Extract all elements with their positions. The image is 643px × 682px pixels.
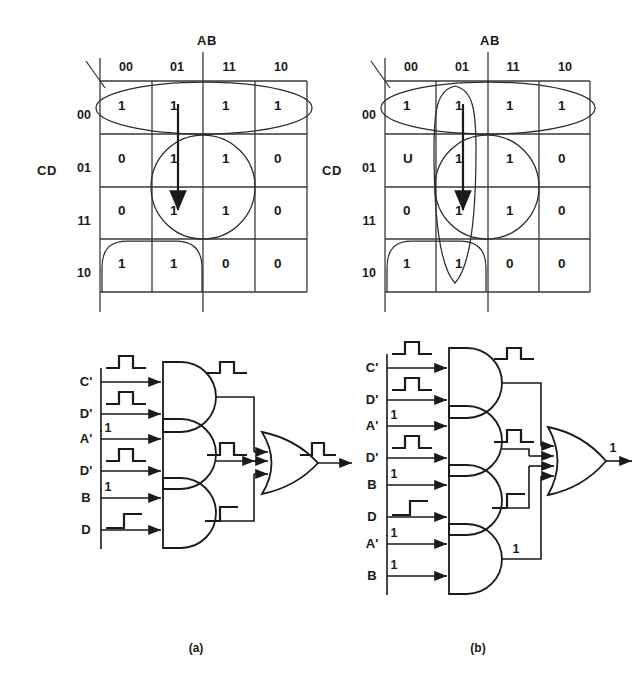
kmap-b-cell-0-2: 1 xyxy=(506,98,514,113)
kmap-b-cell-1-1: 1 xyxy=(455,151,463,166)
kmap-b-cell-0-1: 1 xyxy=(455,98,463,113)
caption-b: (b) xyxy=(470,641,485,655)
circuit-a-output-pulse-waveform-icon xyxy=(300,443,336,455)
kmap-a-row-header: CD xyxy=(37,163,57,178)
circuit-b-and3-input-1-waveform-icon xyxy=(392,501,428,515)
kmap-a-row-label-3: 10 xyxy=(77,266,91,280)
circuit-b-and1-input-0-label: C' xyxy=(366,360,378,375)
kmap-a-cell-3-3: 0 xyxy=(274,256,282,271)
kmap-a-cell-3-1: 1 xyxy=(170,256,178,271)
circuit-a-and1-input-0-waveform-icon xyxy=(106,356,146,368)
circuit-b-and4-input-1-value: 1 xyxy=(391,558,398,572)
circuit-a-and2-input-1-label: D' xyxy=(80,463,92,478)
kmap-b-col-label-0: 00 xyxy=(404,60,418,74)
circuit-b-and1-output-waveform-icon xyxy=(494,348,534,359)
circuit-a-and3-input-0-value: 1 xyxy=(105,480,112,494)
kmap-a-grid xyxy=(86,52,307,312)
circuit-a-and3-input-1-label: D xyxy=(81,522,90,537)
circuit-b-and4-input-0-label: A' xyxy=(366,536,378,551)
circuit-b-and3-output-waveform-icon xyxy=(492,494,525,508)
kmap-b-row-label-2: 11 xyxy=(362,214,375,228)
kmap-a-row-label-1: 01 xyxy=(77,161,91,175)
kmap-b: AB CD 00 01 11 10 00 01 11 10 1 1 1 1 U … xyxy=(322,33,595,312)
kmap-b-row-label-0: 00 xyxy=(362,108,376,122)
circuit-b-output-value: 1 xyxy=(610,441,617,455)
circuit-a-and1-input-1-waveform-icon xyxy=(106,392,146,404)
circuit-b-and3-input-1-label: D xyxy=(367,509,376,524)
kmap-a-row-label-0: 00 xyxy=(77,108,91,122)
kmap-b-row-label-1: 01 xyxy=(362,161,376,175)
kmap-b-cell-3-2: 0 xyxy=(506,256,514,271)
circuit-b-and1-input-0-waveform-icon xyxy=(392,342,432,354)
circuit-a-and3-output-waveform-icon xyxy=(205,507,238,521)
circuit-b-and1-input-1-label: D' xyxy=(366,392,378,407)
circuit-b-and2-input-0-label: A' xyxy=(366,418,378,433)
kmap-a-cell-2-1: 1 xyxy=(170,203,178,218)
kmap-a-cell-2-2: 1 xyxy=(222,203,230,218)
kmap-a-cell-0-2: 1 xyxy=(222,98,230,113)
kmap-b-col-header: AB xyxy=(480,33,500,48)
circuit-a-and1-output-waveform-icon xyxy=(207,362,247,373)
kmap-a-cell-2-0: 0 xyxy=(118,203,126,218)
circuit-b-and2-input-1-waveform-icon xyxy=(392,436,432,448)
circuit-b-and3-input-0-label: B xyxy=(367,477,376,492)
circuit-a-and1-input-0-label: C' xyxy=(80,374,92,389)
circuit-b-and4-input-1-label: B xyxy=(367,568,376,583)
kmap-a-cell-1-1: 1 xyxy=(170,151,178,166)
kmap-a-cell-0-1: 1 xyxy=(170,98,178,113)
kmap-b-group-consensus-column xyxy=(434,86,476,283)
circuit-a-and2-input-0-value: 1 xyxy=(105,421,112,435)
kmap-b-cell-2-2: 1 xyxy=(506,203,514,218)
circuit-a-and3-input-1-waveform-icon xyxy=(106,514,142,528)
circuit-a-and2-input-1-waveform-icon xyxy=(106,449,146,461)
kmap-a-cell-2-3: 0 xyxy=(274,203,282,218)
kmap-b-cell-0-3: 1 xyxy=(558,98,566,113)
circuit-a-and1-input-1-label: D' xyxy=(80,406,92,421)
circuit-b-and4-output-wire xyxy=(502,476,541,559)
circuit-a-and3-input-0-label: B xyxy=(81,490,90,505)
kmap-a-cell-0-0: 1 xyxy=(118,98,126,113)
circuit-b-or-gate xyxy=(548,427,606,495)
kmap-a: AB CD 00 01 11 10 00 01 11 10 1 1 1 1 0 … xyxy=(37,33,312,312)
circuit-b-and2-input-1-label: D' xyxy=(366,450,378,465)
kmap-b-cell-1-0: U xyxy=(403,151,413,166)
kmap-b-cell-2-0: 0 xyxy=(403,203,411,218)
kmap-b-col-label-3: 10 xyxy=(558,60,572,74)
circuit-b-and3-input-0-value: 1 xyxy=(391,467,398,481)
circuit-a-or-gate xyxy=(262,432,318,494)
kmap-a-col-header: AB xyxy=(197,33,217,48)
kmap-a-cell-0-3: 1 xyxy=(274,98,282,113)
kmap-b-cell-2-3: 0 xyxy=(558,203,566,218)
kmap-a-row-label-2: 11 xyxy=(77,214,90,228)
kmap-b-cell-0-0: 1 xyxy=(403,98,411,113)
kmap-b-cell-1-3: 0 xyxy=(558,151,566,166)
circuit-b-and2-output-wire xyxy=(502,449,529,456)
figure-root: AB CD 00 01 11 10 00 01 11 10 1 1 1 1 0 … xyxy=(0,0,643,682)
kmap-a-cell-3-2: 0 xyxy=(222,256,230,271)
circuit-b-and2-input-0-value: 1 xyxy=(391,408,398,422)
kmap-b-col-label-1: 01 xyxy=(455,60,469,74)
kmap-a-cell-3-0: 1 xyxy=(118,256,126,271)
circuit-a-and2-output-waveform-icon xyxy=(207,443,247,455)
circuit-a-and2-input-0-label: A' xyxy=(80,431,92,446)
kmap-a-col-label-2: 11 xyxy=(222,60,235,74)
circuit-b-and4-output-value: 1 xyxy=(513,542,520,556)
kmap-b-col-label-2: 11 xyxy=(506,60,519,74)
kmap-b-grid xyxy=(371,52,590,312)
kmap-a-col-label-0: 00 xyxy=(119,60,133,74)
circuit-a-and3-output-wire xyxy=(216,474,254,521)
kmap-b-row-header: CD xyxy=(322,163,342,178)
kmap-a-cell-1-3: 0 xyxy=(274,151,282,166)
kmap-a-col-label-1: 01 xyxy=(170,60,184,74)
kmap-b-cell-3-3: 0 xyxy=(558,256,566,271)
caption-a: (a) xyxy=(189,641,204,655)
kmap-b-row-label-3: 10 xyxy=(362,266,376,280)
circuit-b-and1-input-1-waveform-icon xyxy=(392,378,432,390)
kmap-b-cell-2-1: 1 xyxy=(455,203,463,218)
circuit-a: C' D' A' D' 1 B D 1 xyxy=(80,356,352,549)
kmap-a-col-label-3: 10 xyxy=(274,60,288,74)
kmap-b-cell-3-1: 1 xyxy=(455,256,463,271)
kmap-b-cell-1-2: 1 xyxy=(506,151,514,166)
kmap-b-cell-3-0: 1 xyxy=(403,256,411,271)
circuit-b: C' D' A' D' 1 B D 1 A' B 1 1 xyxy=(366,342,632,595)
